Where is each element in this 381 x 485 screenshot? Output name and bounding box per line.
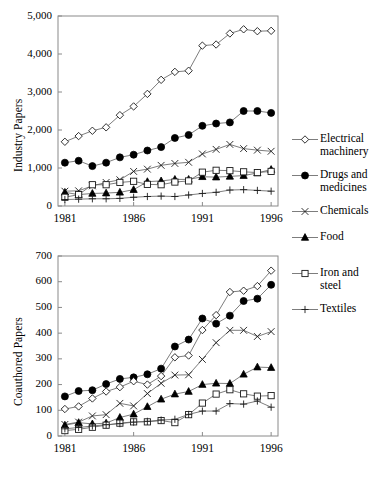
data-point-plus (240, 401, 247, 408)
data-point-open-square (117, 179, 123, 185)
series-drugs-and-medicines (61, 281, 274, 400)
data-point-filled-circle (89, 387, 96, 394)
data-point-filled-circle (302, 172, 309, 179)
data-point-plus (130, 194, 137, 201)
data-point-plus (185, 191, 192, 198)
data-point-plus (213, 189, 220, 196)
data-point-plus (254, 187, 261, 194)
data-point-filled-circle (226, 312, 233, 319)
legend-item-drugs-and-medicines[interactable]: Drugs and medicines (292, 168, 368, 193)
data-point-plus (158, 193, 165, 200)
data-point-filled-circle (75, 388, 82, 395)
data-point-open-diamond (116, 383, 123, 390)
data-point-filled-circle (240, 298, 247, 305)
series-line (65, 111, 271, 166)
data-point-open-diamond (61, 138, 68, 145)
data-point-open-diamond (157, 372, 164, 379)
data-point-filled-triangle (226, 380, 233, 387)
data-point-filled-triangle (240, 370, 247, 377)
data-point-open-diamond (171, 354, 178, 361)
legend-item-textiles[interactable]: Textiles (292, 302, 356, 316)
data-point-filled-circle (254, 108, 261, 115)
y-tick-label: 1,000 (6, 161, 52, 173)
data-point-open-diamond (185, 67, 192, 74)
x-tick-label: 1981 (40, 442, 90, 454)
x-tick-label: 1986 (109, 442, 159, 454)
data-point-filled-circle (171, 343, 178, 350)
y-tick-label: 500 (6, 300, 52, 312)
legend-marker-filled-triangle-icon (292, 231, 318, 244)
data-point-open-diamond (226, 288, 233, 295)
data-point-plus (116, 195, 123, 202)
data-point-filled-triangle (213, 173, 220, 180)
data-point-open-square (241, 169, 247, 175)
x-tick-label: 1996 (246, 212, 296, 224)
data-point-open-square (254, 169, 260, 175)
data-point-filled-circle (199, 122, 206, 129)
legend-item-iron-and-steel[interactable]: Iron and steel (292, 266, 359, 291)
x-tick-label: 1991 (177, 442, 227, 454)
y-tick-label: 400 (6, 326, 52, 338)
data-point-open-square (103, 182, 109, 188)
data-point-cross-x (213, 339, 220, 346)
data-point-open-diamond (267, 27, 274, 34)
legend-item-chemicals[interactable]: Chemicals (292, 204, 369, 218)
data-point-plus (171, 193, 178, 200)
legend-label: Food (318, 230, 344, 243)
data-point-filled-circle (213, 320, 220, 327)
data-point-open-diamond (240, 287, 247, 294)
data-point-open-square (268, 168, 274, 174)
data-point-plus (226, 400, 233, 407)
series-line (65, 29, 271, 141)
data-point-open-square (158, 182, 164, 188)
y-tick-label: 2,000 (6, 123, 52, 135)
data-point-open-square (302, 270, 308, 276)
data-point-cross-x (158, 380, 165, 387)
data-point-open-diamond (240, 26, 247, 33)
data-point-cross-x (199, 356, 206, 363)
data-point-plus (226, 186, 233, 193)
data-point-open-square (144, 181, 150, 187)
data-point-plus (268, 188, 275, 195)
data-point-filled-circle (116, 375, 123, 382)
data-point-plus (199, 407, 206, 414)
data-point-filled-circle (75, 157, 82, 164)
legend-label: Drugs and medicines (318, 168, 368, 193)
data-point-filled-circle (171, 134, 178, 141)
series-electrical-machinery (61, 26, 275, 146)
data-point-open-diamond (144, 381, 151, 388)
data-point-plus (199, 190, 206, 197)
data-point-open-diamond (185, 352, 192, 359)
data-point-open-diamond (102, 388, 109, 395)
y-tick-label: 5,000 (6, 9, 52, 21)
data-point-open-square (268, 393, 274, 399)
data-point-open-square (199, 169, 205, 175)
data-point-filled-triangle (103, 189, 110, 196)
data-point-filled-circle (213, 120, 220, 127)
data-point-cross-x (226, 141, 233, 148)
data-point-cross-x (254, 333, 261, 340)
data-point-open-diamond (199, 42, 206, 49)
data-point-plus (301, 306, 308, 313)
data-point-cross-x (268, 328, 275, 335)
data-point-open-square (199, 400, 205, 406)
data-point-open-square (213, 391, 219, 397)
y-tick-label: 100 (6, 403, 52, 415)
data-point-filled-circle (158, 365, 165, 372)
x-tick-label: 1986 (109, 212, 159, 224)
data-point-open-diamond (301, 136, 308, 143)
data-point-filled-circle (103, 381, 110, 388)
data-point-plus (268, 404, 275, 411)
legend-item-food[interactable]: Food (292, 230, 344, 244)
data-point-cross-x (199, 151, 206, 158)
data-point-open-square (227, 387, 233, 393)
data-point-filled-triangle (213, 379, 220, 386)
data-point-open-square (89, 182, 95, 188)
data-point-open-diamond (75, 403, 82, 410)
legend-item-electrical-machinery[interactable]: Electrical machinery (292, 132, 369, 157)
data-point-filled-triangle (268, 364, 275, 371)
data-point-cross-x (144, 390, 151, 397)
data-point-open-diamond (61, 405, 68, 412)
data-point-filled-triangle (254, 363, 261, 370)
data-point-cross-x (130, 403, 137, 410)
